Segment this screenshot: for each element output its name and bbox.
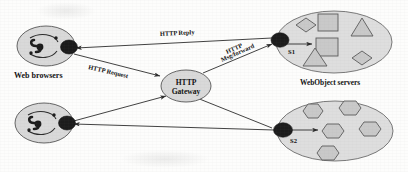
server-s2-port[interactable] — [274, 123, 293, 137]
server-group-s1[interactable]: S1 — [271, 11, 392, 73]
browser-2-node[interactable] — [15, 103, 76, 143]
object-hexagon — [322, 124, 344, 138]
http-gateway-node[interactable]: HTTP Gateway — [161, 70, 211, 102]
gateway-label-line1: HTTP — [176, 78, 197, 87]
browser-1-port[interactable] — [61, 40, 78, 54]
server-s1-label: S1 — [288, 48, 295, 55]
edge-s2-to-browser2-line — [74, 124, 274, 130]
server-s1-port[interactable] — [271, 33, 289, 47]
server-group-s2[interactable]: S2 — [274, 101, 394, 161]
object-hexagon — [303, 104, 323, 118]
gateway-label-line2: Gateway — [172, 87, 201, 96]
edge-browser2-out-line — [70, 96, 166, 122]
object-hexagon — [339, 101, 361, 115]
browser-group-label: Web browsers — [14, 71, 63, 80]
diagram-canvas: S1 S2 WebObject servers HTTP Reply HTTP … — [0, 0, 408, 172]
object-square — [316, 38, 338, 56]
server-group-label: WebObject servers — [300, 78, 360, 87]
object-hexagon — [359, 122, 381, 136]
edge-gateway-to-s2-line — [192, 96, 272, 128]
server-s2-label: S2 — [290, 137, 298, 144]
edge-http-request-label: HTTP Request — [88, 63, 130, 79]
object-hexagon — [317, 146, 339, 160]
edge-http-reply-label: HTTP Reply — [160, 28, 196, 37]
browser-1-node[interactable] — [17, 26, 78, 66]
network-diagram: S1 S2 WebObject servers HTTP Reply HTTP … — [0, 0, 408, 172]
browser-2-port[interactable] — [59, 116, 76, 130]
object-square — [318, 14, 338, 31]
